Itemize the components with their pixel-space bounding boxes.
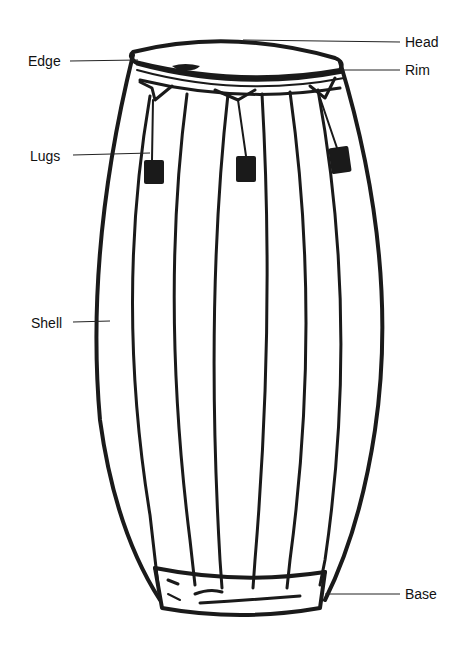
leader-shell	[73, 321, 110, 322]
conga-drum-diagram	[0, 0, 467, 650]
lug-center	[236, 156, 256, 182]
label-rim: Rim	[405, 62, 430, 78]
drum-base	[155, 568, 325, 615]
label-edge: Edge	[28, 53, 61, 69]
lug-left	[144, 160, 164, 184]
leader-head	[243, 40, 400, 42]
label-shell: Shell	[31, 315, 62, 331]
drum-lugs	[140, 78, 352, 184]
label-lugs: Lugs	[30, 148, 60, 164]
label-head: Head	[405, 34, 438, 50]
lug-right	[328, 146, 351, 175]
drum-head	[131, 41, 343, 80]
drum-shell	[96, 55, 382, 600]
leader-edge	[70, 60, 138, 61]
label-base: Base	[405, 586, 437, 602]
